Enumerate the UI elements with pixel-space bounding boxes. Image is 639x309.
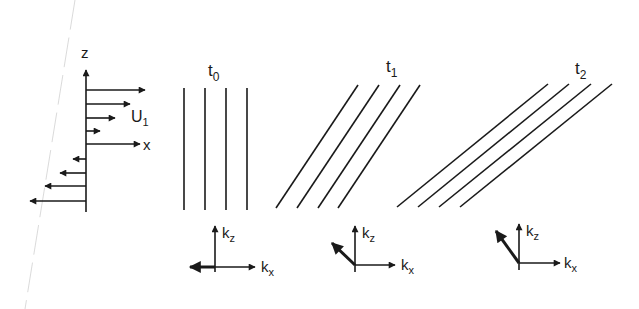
crest-line [397,84,548,207]
wavevector-arrow [496,231,519,263]
wavevector-arrow [332,243,355,265]
kz-subscript: z [534,230,540,242]
time-label-subscript: 0 [213,70,220,84]
kx-label-t1: kx [401,256,415,276]
crest-line [297,85,379,208]
time-label-t2: t2 [575,59,587,82]
velocity-profile [30,70,145,212]
velocity-label-subscript: 1 [143,116,149,128]
kz-subscript: z [230,232,236,244]
crest-line [276,85,358,208]
kz-label-t2: kz [526,222,539,242]
time-label-t1: t1 [386,57,398,80]
crests-t1 [276,85,420,208]
shear-wave-diagram: z x U1 t0 t1 t2 kz kx kz kx [0,0,639,309]
time-label-t0: t0 [208,61,220,84]
kz-subscript: z [370,232,376,244]
time-label-subscript: 2 [580,68,587,82]
crest-line [338,85,420,208]
velocity-label: U1 [131,108,149,128]
kz-label-t0: kz [222,224,235,244]
crest-line [318,85,400,208]
z-axis-label: z [81,44,89,61]
time-label-subscript: 1 [391,66,398,80]
kx-subscript: x [409,264,415,276]
kx-subscript: x [572,262,578,274]
crests-t2 [397,84,612,207]
crest-line [460,84,612,207]
velocity-label-main: U [131,108,143,125]
crest-line [418,84,569,207]
x-axis-label: x [143,136,151,153]
kz-label-t1: kz [362,224,375,244]
crests-t0 [184,88,247,210]
kx-subscript: x [269,266,275,278]
kx-label-t2: kx [564,254,578,274]
kx-label-t0: kx [261,258,275,278]
crest-line [439,84,591,207]
scan-artifact-line [25,0,75,309]
